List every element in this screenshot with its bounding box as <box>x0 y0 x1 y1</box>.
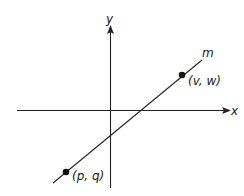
point-v-w <box>179 72 186 79</box>
point-v-w-label: (v, w) <box>188 74 221 88</box>
line-m-label: m <box>202 46 214 60</box>
diagram-svg: y x m (p, q) (v, w) <box>0 0 244 196</box>
y-axis-label: y <box>105 12 114 26</box>
coordinate-diagram: y x m (p, q) (v, w) <box>0 0 244 196</box>
point-p-q-label: (p, q) <box>72 169 104 183</box>
x-axis-label: x <box>230 104 239 118</box>
point-p-q <box>63 169 70 176</box>
line-m <box>53 60 202 183</box>
